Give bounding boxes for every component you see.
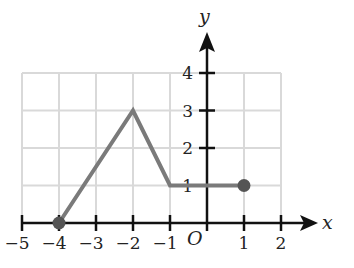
x-tick-label: −3 [78,233,103,253]
plot-line [53,111,251,230]
y-tick-label: 4 [182,63,193,83]
x-tick-label: −5 [4,233,29,253]
x-tick-label: 2 [276,233,287,253]
y-axis-label: y [198,5,210,27]
function-line [59,111,244,224]
x-tick-label: −2 [115,233,140,253]
x-tick-label: 1 [239,233,250,253]
y-tick-label: 2 [182,138,193,158]
y-tick-label: 3 [182,101,193,121]
closed-endpoint-icon [53,217,66,230]
x-axis-label: x [322,211,333,233]
x-tick-label: −1 [152,233,177,253]
graph: −5−4−3−2−1121234 x y O [0,0,354,268]
origin-label: O [187,227,203,249]
x-tick-label: −4 [41,233,66,253]
closed-endpoint-icon [238,179,251,192]
